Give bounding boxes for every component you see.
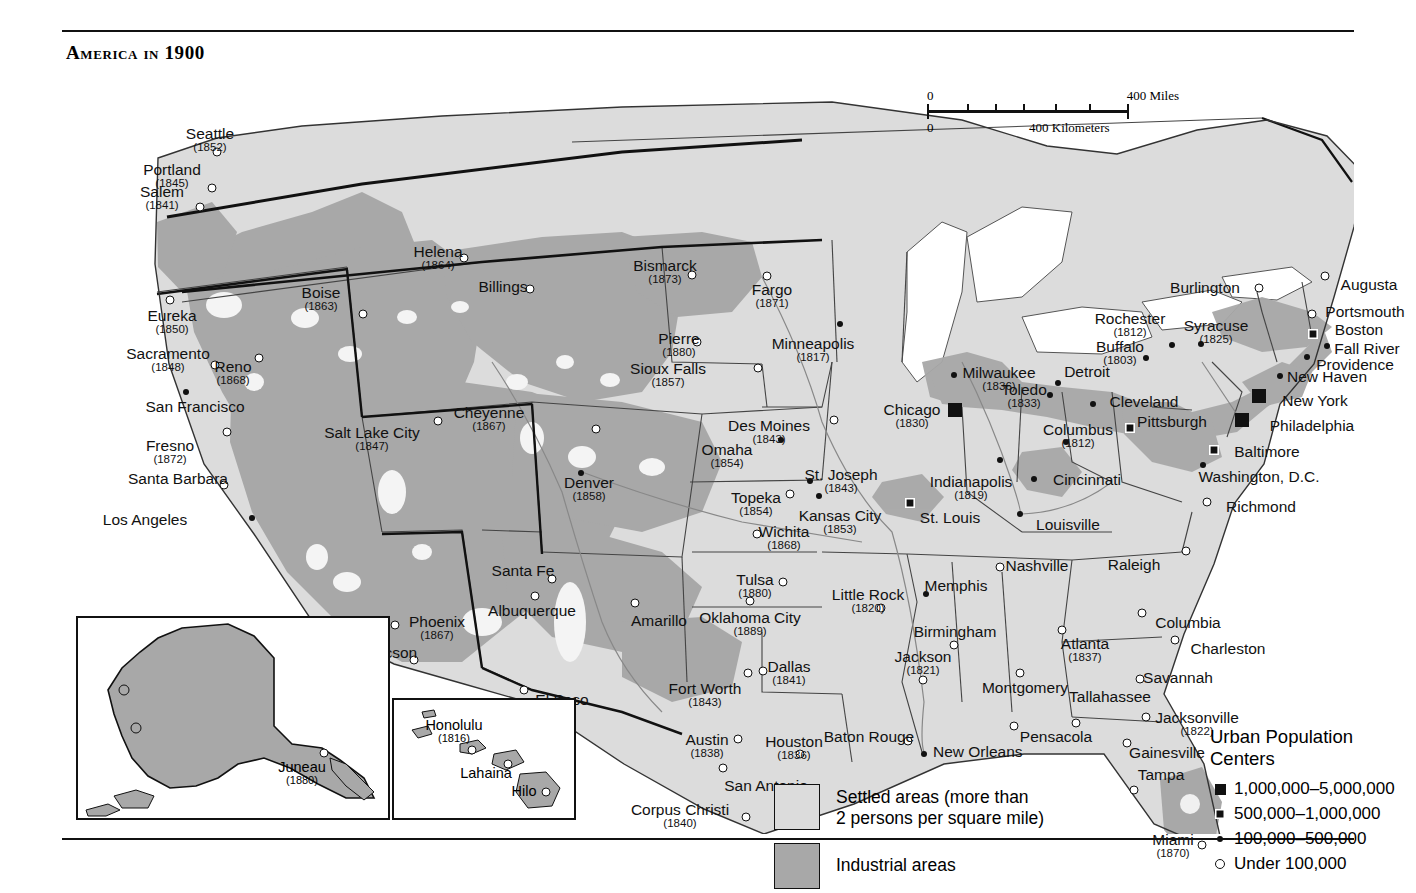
- city-symbol[interactable]: [1171, 636, 1180, 645]
- city-symbol[interactable]: [1055, 380, 1061, 386]
- city-name: Houston: [765, 734, 823, 750]
- city-name: New Orleans: [933, 744, 1023, 760]
- city-symbol[interactable]: [1255, 284, 1264, 293]
- city-symbol[interactable]: [249, 515, 255, 521]
- city-name: Charleston: [1191, 641, 1266, 657]
- city-symbol[interactable]: [391, 621, 400, 630]
- scale-tick: [1127, 104, 1129, 119]
- city-symbol[interactable]: [592, 425, 601, 434]
- city-symbol[interactable]: [434, 417, 443, 426]
- city-year: (1880): [736, 588, 773, 600]
- city-label: Eureka(1850): [147, 308, 196, 336]
- city-symbol[interactable]: [223, 428, 232, 437]
- city-symbol[interactable]: [734, 735, 743, 744]
- city-name: Tallahassee: [1069, 689, 1151, 705]
- city-symbol[interactable]: [1304, 354, 1310, 360]
- city-symbol[interactable]: [359, 310, 368, 319]
- city-symbol[interactable]: [1308, 310, 1317, 319]
- city-symbol[interactable]: [166, 296, 175, 305]
- city-symbol[interactable]: [744, 669, 753, 678]
- city-symbol[interactable]: [837, 321, 843, 327]
- city-name: Cleveland: [1110, 394, 1179, 410]
- city-label: St. Joseph(1843): [804, 467, 877, 495]
- city-symbol[interactable]: [759, 667, 768, 676]
- city-year: (1858): [564, 491, 614, 503]
- city-symbol[interactable]: [1090, 401, 1096, 407]
- city-symbol[interactable]: [919, 676, 928, 685]
- settled-legend-line2: 2 persons per square mile): [836, 808, 1044, 829]
- city-symbol[interactable]: [542, 788, 551, 797]
- city-symbol[interactable]: [719, 764, 728, 773]
- city-symbol[interactable]: [196, 203, 205, 212]
- city-symbol[interactable]: [1209, 445, 1219, 455]
- city-name: Phoenix: [409, 614, 465, 630]
- map-canvas: Seattle(1852)Portland(1845)Salem(1841)Eu…: [62, 62, 1354, 834]
- city-symbol[interactable]: [1031, 476, 1037, 482]
- city-label: Cleveland: [1110, 394, 1179, 410]
- city-symbol[interactable]: [1182, 547, 1191, 556]
- city-symbol[interactable]: [320, 749, 329, 758]
- legend-entry-1m-5m: 1,000,000–5,000,000: [1210, 777, 1416, 802]
- page-title: America in 1900: [66, 42, 205, 64]
- city-symbol[interactable]: [1308, 329, 1318, 339]
- city-symbol[interactable]: [208, 184, 217, 193]
- city-label: New Haven: [1287, 369, 1367, 385]
- city-symbol[interactable]: [1277, 373, 1283, 379]
- city-symbol[interactable]: [183, 389, 189, 395]
- city-symbol[interactable]: [746, 597, 755, 606]
- city-symbol[interactable]: [1010, 722, 1019, 731]
- big-square-icon: [1210, 784, 1230, 795]
- city-symbol[interactable]: [631, 599, 640, 608]
- city-symbol[interactable]: [830, 416, 839, 425]
- inset-city-label: Lahaina: [460, 766, 512, 781]
- city-symbol[interactable]: [1324, 343, 1330, 349]
- city-symbol[interactable]: [997, 457, 1003, 463]
- city-name: Boston: [1335, 322, 1383, 338]
- city-symbol[interactable]: [1198, 841, 1207, 850]
- city-symbol[interactable]: [786, 490, 795, 499]
- city-name: Boise: [302, 285, 341, 301]
- open-circle-icon: [1210, 859, 1230, 869]
- city-symbol[interactable]: [816, 493, 822, 499]
- city-symbol[interactable]: [1016, 669, 1025, 678]
- city-symbol[interactable]: [921, 751, 927, 757]
- city-name: Nashville: [1006, 558, 1069, 574]
- city-symbol[interactable]: [1017, 511, 1023, 517]
- city-symbol[interactable]: [779, 578, 788, 587]
- city-symbol[interactable]: [948, 403, 962, 417]
- city-symbol[interactable]: [1047, 392, 1053, 398]
- city-symbol[interactable]: [742, 813, 751, 822]
- city-symbol[interactable]: [1125, 423, 1135, 433]
- city-symbol[interactable]: [996, 563, 1005, 572]
- city-symbol[interactable]: [905, 498, 915, 508]
- city-symbol[interactable]: [1130, 786, 1139, 795]
- city-symbol[interactable]: [1203, 498, 1212, 507]
- city-symbol[interactable]: [1142, 713, 1151, 722]
- city-symbol[interactable]: [1072, 719, 1081, 728]
- city-symbol[interactable]: [1058, 626, 1067, 635]
- scale-km-zero: 0: [927, 120, 934, 136]
- city-symbol[interactable]: [468, 746, 477, 755]
- city-symbol[interactable]: [754, 364, 763, 373]
- city-symbol[interactable]: [1138, 609, 1147, 618]
- settled-legend-line1: Settled areas (more than: [836, 787, 1044, 808]
- city-symbol[interactable]: [531, 592, 540, 601]
- city-symbol[interactable]: [1235, 413, 1249, 427]
- city-symbol[interactable]: [778, 437, 784, 443]
- city-year: (1812): [1095, 327, 1166, 339]
- city-symbol[interactable]: [951, 372, 957, 378]
- city-symbol[interactable]: [1252, 389, 1266, 403]
- city-label: Reno(1868): [214, 359, 251, 387]
- city-year: (1847): [324, 441, 420, 453]
- city-symbol[interactable]: [763, 272, 772, 281]
- city-year: (1870): [1152, 848, 1193, 860]
- city-name: St. Louis: [920, 510, 980, 526]
- city-symbol[interactable]: [1321, 272, 1330, 281]
- city-label: Sioux Falls(1857): [630, 361, 706, 389]
- city-name: Savannah: [1143, 670, 1213, 686]
- city-symbol[interactable]: [255, 354, 264, 363]
- city-symbol[interactable]: [1169, 342, 1175, 348]
- city-label: Kansas City(1853): [799, 508, 882, 536]
- city-symbol[interactable]: [520, 686, 529, 695]
- city-name: St. Joseph: [804, 467, 877, 483]
